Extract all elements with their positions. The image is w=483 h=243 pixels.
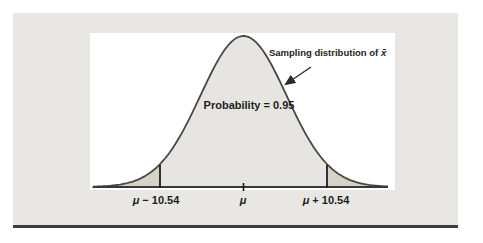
tick-label-mu-plus: μ + 10.54	[303, 194, 350, 206]
annotation-symbol: x̄	[381, 47, 386, 58]
figure-panel: Probability = 0.95 Sampling distribution…	[13, 13, 458, 228]
mu-symbol: μ	[240, 194, 247, 206]
annotation-arrow	[286, 67, 311, 84]
tick-label-mu-minus: μ − 10.54	[133, 194, 180, 206]
center-area-fill	[160, 36, 327, 187]
tick-value: − 10.54	[139, 194, 179, 206]
probability-label: Probability = 0.95	[204, 99, 295, 111]
tick-label-mu: μ	[240, 194, 247, 206]
mu-symbol: μ	[133, 194, 140, 206]
tick-value: + 10.54	[309, 194, 349, 206]
plot-area: Probability = 0.95 Sampling distribution…	[90, 33, 395, 190]
curve-annotation: Sampling distribution of x̄	[269, 47, 386, 58]
annotation-text: Sampling distribution of	[269, 47, 378, 58]
mu-symbol: μ	[303, 194, 310, 206]
right-tail-fill	[327, 164, 388, 187]
